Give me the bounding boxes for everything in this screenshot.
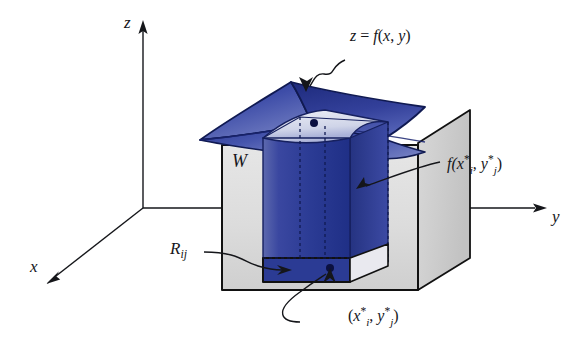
fval-y: y xyxy=(481,155,488,172)
leader-surface xyxy=(310,60,345,86)
x-axis xyxy=(46,208,143,284)
surface-eq-equals: = xyxy=(356,27,373,44)
function-value-label: f(x*i, y*j) xyxy=(447,154,502,176)
fval-x: x xyxy=(457,155,464,172)
figure-container: z y x z = f(x, y) W f(x*i, y*j) Rij (x*i… xyxy=(0,0,586,338)
fval-comma: , xyxy=(473,155,481,172)
x-axis-label: x xyxy=(30,258,38,275)
base-rectangle-label: Rij xyxy=(170,240,187,261)
sample-point-label: (x*i, y*j) xyxy=(348,306,399,328)
surface-eq-comma: , xyxy=(390,27,398,44)
rij-sub: ij xyxy=(180,247,187,261)
region-w-label: W xyxy=(232,152,247,170)
z-axis xyxy=(138,20,147,208)
sample-point-dot-top xyxy=(310,119,318,127)
surface-equation-label: z = f(x, y) xyxy=(350,28,411,44)
fval-close: ) xyxy=(497,155,502,172)
rij-r: R xyxy=(170,239,180,258)
z-axis-label: z xyxy=(124,14,131,31)
fval-f: f( xyxy=(447,155,457,172)
surface-eq-close: ) xyxy=(405,27,410,44)
y-axis-label: y xyxy=(552,208,560,225)
pt-close: ) xyxy=(393,307,398,324)
